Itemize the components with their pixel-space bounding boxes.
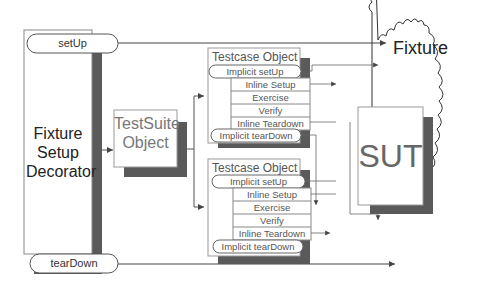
suite-label: TestSuite Object — [114, 114, 177, 152]
testcase-2-implicit-teardown[interactable]: Implicit tearDown — [213, 241, 303, 252]
decorator-label-line-3: Decorator — [26, 162, 90, 181]
decorator-label: Fixture Setup Decorator — [26, 124, 90, 181]
testcase-1-inline-setup[interactable]: Inline Setup — [231, 79, 310, 90]
testcase-1-inline-teardown[interactable]: Inline Teardown — [231, 118, 310, 129]
suite-label-line-1: TestSuite — [114, 114, 177, 133]
testcase-1-implicit-setup[interactable]: Implicit setUp — [209, 66, 301, 77]
fixture-label: Fixture — [393, 38, 448, 59]
setup-pill[interactable]: setUp — [27, 37, 118, 49]
testcase-2-implicit-setup[interactable]: Implicit setUp — [212, 176, 305, 187]
testcase-2-inline-setup[interactable]: Inline Setup — [233, 189, 311, 200]
decorator-label-line-2: Setup — [26, 143, 90, 162]
testcase-2-title: Testcase Object — [212, 161, 297, 175]
testcase-1-title: Testcase Object — [212, 50, 297, 64]
testcase-1-exercise[interactable]: Exercise — [231, 92, 310, 103]
sut-label: SUT — [358, 138, 423, 175]
testcase-2-exercise[interactable]: Exercise — [233, 202, 311, 213]
testcase-1-verify[interactable]: Verify — [231, 105, 310, 116]
testcase-1-implicit-teardown[interactable]: Implicit tearDown — [211, 130, 301, 141]
testcase-2-verify[interactable]: Verify — [233, 215, 311, 226]
suite-label-line-2: Object — [114, 133, 177, 152]
teardown-pill[interactable]: tearDown — [30, 257, 118, 269]
testcase-2-inline-teardown[interactable]: Inline Teardown — [233, 228, 311, 239]
decorator-label-line-1: Fixture — [26, 124, 90, 143]
